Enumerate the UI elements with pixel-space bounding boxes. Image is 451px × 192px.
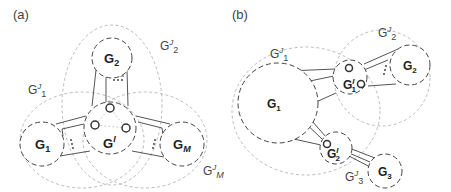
link-gm-gi [138, 122, 162, 128]
ellipsis-dots [70, 139, 74, 149]
panel-a-label: (a) [13, 7, 29, 22]
node-gi1-label: GI1 [343, 77, 357, 94]
node-gi2-label: GI2 [327, 146, 341, 163]
link-gi1-g2 [368, 84, 396, 86]
link-gi2-g3 [349, 148, 375, 158]
port-circle [106, 104, 114, 112]
group-gj1-label: GJ1 [28, 82, 46, 99]
ellipsis-dots [383, 65, 387, 75]
group-gj3-label: GJ3 [345, 169, 363, 186]
panel-b-label: (b) [232, 7, 248, 22]
panel-b: (b) [232, 7, 430, 188]
group-gjm-label: GJM [203, 163, 224, 180]
node-g1 [238, 63, 318, 143]
panel-a: (a) [13, 7, 224, 188]
port-circle [358, 81, 365, 88]
port-circle [91, 121, 99, 129]
group-gj1-label: GJ1 [270, 46, 288, 63]
link-g1-gi [62, 124, 84, 129]
port-circle [122, 124, 130, 132]
diagram-canvas: (a) [0, 0, 451, 192]
ellipsis-dots [113, 79, 123, 81]
link-g2-gi [92, 70, 96, 106]
link-g2-gi [127, 70, 128, 106]
port-circle [346, 65, 353, 72]
link-g1-gi [56, 116, 86, 124]
link-g1-gi [60, 151, 90, 156]
link-gm-gi [132, 151, 164, 157]
group-gj2-label: GJ2 [378, 25, 396, 42]
link-gi1-g2 [364, 60, 388, 70]
group-gj2-label: GJ2 [160, 38, 178, 55]
